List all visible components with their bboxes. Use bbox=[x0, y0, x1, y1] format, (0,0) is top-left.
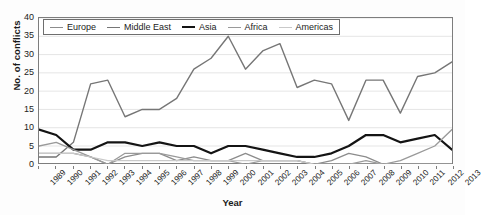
x-tick-2011: 2011 bbox=[429, 168, 448, 187]
legend-line-swatch-icon bbox=[50, 27, 63, 28]
x-tick-2001: 2001 bbox=[256, 168, 275, 187]
x-tick-mark bbox=[176, 166, 177, 169]
x-tick-1990: 1990 bbox=[66, 168, 85, 187]
legend-label: Africa bbox=[245, 23, 268, 32]
legend-item-asia[interactable]: Asia bbox=[182, 23, 217, 32]
x-tick-mark bbox=[211, 166, 212, 169]
x-tick-1991: 1991 bbox=[83, 168, 102, 187]
y-tick-5: 5 bbox=[0, 141, 34, 151]
x-tick-1994: 1994 bbox=[135, 168, 154, 187]
legend-line-swatch-icon bbox=[182, 26, 195, 28]
x-tick-2007: 2007 bbox=[360, 168, 379, 187]
x-axis-title: Year bbox=[0, 197, 465, 208]
x-tick-2006: 2006 bbox=[342, 168, 361, 187]
y-axis-tick-labels: 0510152025303540 bbox=[0, 17, 34, 164]
x-tick-mark bbox=[436, 166, 437, 169]
x-tick-mark bbox=[332, 166, 333, 169]
legend-label: Americas bbox=[296, 23, 334, 32]
x-tick-mark bbox=[384, 166, 385, 169]
x-axis-tick-labels: 1989199019911992199319941995199619971998… bbox=[38, 166, 453, 200]
y-tick-25: 25 bbox=[0, 67, 34, 77]
x-tick-mark bbox=[246, 166, 247, 169]
x-tick-mark bbox=[159, 166, 160, 169]
x-tick-mark bbox=[90, 166, 91, 169]
x-tick-2008: 2008 bbox=[377, 168, 396, 187]
legend-item-europe[interactable]: Europe bbox=[50, 23, 96, 32]
y-tick-40: 40 bbox=[0, 12, 34, 22]
x-tick-2002: 2002 bbox=[273, 168, 292, 187]
x-tick-mark bbox=[297, 166, 298, 169]
x-tick-mark bbox=[280, 166, 281, 169]
legend-line-swatch-icon bbox=[107, 27, 120, 28]
x-tick-2009: 2009 bbox=[394, 168, 413, 187]
x-tick-1995: 1995 bbox=[152, 168, 171, 187]
x-tick-1989: 1989 bbox=[48, 168, 67, 187]
x-tick-1998: 1998 bbox=[204, 168, 223, 187]
legend-item-africa[interactable]: Africa bbox=[228, 23, 268, 32]
x-tick-mark bbox=[38, 166, 39, 169]
x-tick-mark bbox=[142, 166, 143, 169]
x-tick-1993: 1993 bbox=[117, 168, 136, 187]
x-tick-2010: 2010 bbox=[411, 168, 430, 187]
x-tick-mark bbox=[263, 166, 264, 169]
legend-line-swatch-icon bbox=[279, 27, 292, 28]
legend-label: Asia bbox=[199, 23, 217, 32]
x-tick-mark bbox=[315, 166, 316, 169]
legend-line-swatch-icon bbox=[228, 27, 241, 28]
series-lines bbox=[39, 18, 452, 164]
y-tick-35: 35 bbox=[0, 30, 34, 40]
x-tick-1996: 1996 bbox=[169, 168, 188, 187]
x-tick-mark bbox=[228, 166, 229, 169]
legend-item-americas[interactable]: Americas bbox=[279, 23, 334, 32]
x-tick-1997: 1997 bbox=[187, 168, 206, 187]
x-tick-2012: 2012 bbox=[446, 168, 465, 187]
x-tick-1992: 1992 bbox=[100, 168, 119, 187]
x-tick-mark bbox=[401, 166, 402, 169]
x-tick-mark bbox=[418, 166, 419, 169]
x-tick-mark bbox=[73, 166, 74, 169]
x-tick-2005: 2005 bbox=[325, 168, 344, 187]
y-tick-20: 20 bbox=[0, 86, 34, 96]
x-tick-mark bbox=[194, 166, 195, 169]
x-tick-mark bbox=[107, 166, 108, 169]
chart-legend: EuropeMiddle EastAsiaAfricaAmericas bbox=[43, 19, 340, 35]
x-tick-mark bbox=[124, 166, 125, 169]
x-tick-mark bbox=[55, 166, 56, 169]
legend-item-middle-east[interactable]: Middle East bbox=[107, 23, 171, 32]
legend-label: Europe bbox=[67, 23, 96, 32]
y-tick-30: 30 bbox=[0, 49, 34, 59]
x-tick-mark bbox=[453, 166, 454, 169]
y-tick-10: 10 bbox=[0, 122, 34, 132]
y-tick-15: 15 bbox=[0, 104, 34, 114]
x-tick-1999: 1999 bbox=[221, 168, 240, 187]
x-tick-2000: 2000 bbox=[239, 168, 258, 187]
x-tick-mark bbox=[349, 166, 350, 169]
x-tick-mark bbox=[367, 166, 368, 169]
x-tick-2004: 2004 bbox=[308, 168, 327, 187]
legend-label: Middle East bbox=[124, 23, 171, 32]
y-tick-0: 0 bbox=[0, 159, 34, 169]
x-tick-2013: 2013 bbox=[463, 168, 482, 187]
x-tick-2003: 2003 bbox=[290, 168, 309, 187]
plot-area bbox=[38, 17, 453, 164]
